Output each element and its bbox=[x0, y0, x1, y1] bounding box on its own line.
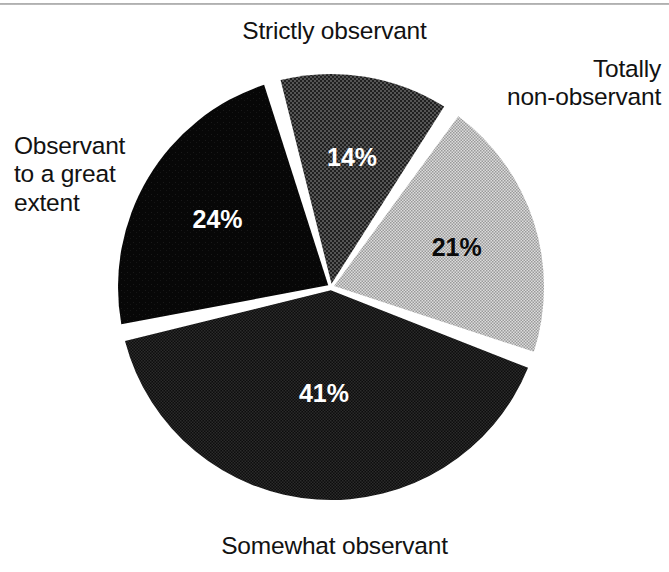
pie-label-strictly-observant: Strictly observant bbox=[0, 17, 669, 45]
pie-label-somewhat-observant: Somewhat observant bbox=[0, 532, 669, 560]
pie-label-observant-to-a-great-extent: Observant to a great extent bbox=[14, 132, 204, 217]
pie-label-totally-non-observant: Totally non-observant bbox=[411, 55, 661, 112]
chart-page: 14%21%41%24% Strictly observant Totally … bbox=[0, 0, 669, 572]
pie-slice-value-label: 21% bbox=[432, 233, 482, 261]
pie-slice-value-label: 41% bbox=[299, 379, 349, 407]
pie-slice-value-label: 14% bbox=[327, 143, 377, 171]
